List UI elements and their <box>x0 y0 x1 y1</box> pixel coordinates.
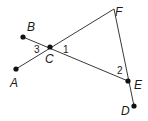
point-b-dot <box>20 34 25 39</box>
angle-3-label: 3 <box>34 44 40 55</box>
label-b: B <box>27 20 35 34</box>
geometry-diagram: F B C A E D 3 1 2 <box>0 0 148 121</box>
label-a: A <box>9 76 18 90</box>
point-d-dot <box>131 103 136 108</box>
angle-1-label: 1 <box>63 44 69 55</box>
label-f: F <box>115 5 123 19</box>
angle-2-label: 2 <box>117 65 123 76</box>
point-e-dot <box>125 78 130 83</box>
label-c: C <box>45 52 54 66</box>
segment-af <box>16 9 114 69</box>
segment-fd <box>114 9 134 106</box>
point-a-dot <box>13 66 18 71</box>
point-c-dot <box>47 44 52 49</box>
label-d: D <box>121 104 130 118</box>
label-e: E <box>134 78 143 92</box>
